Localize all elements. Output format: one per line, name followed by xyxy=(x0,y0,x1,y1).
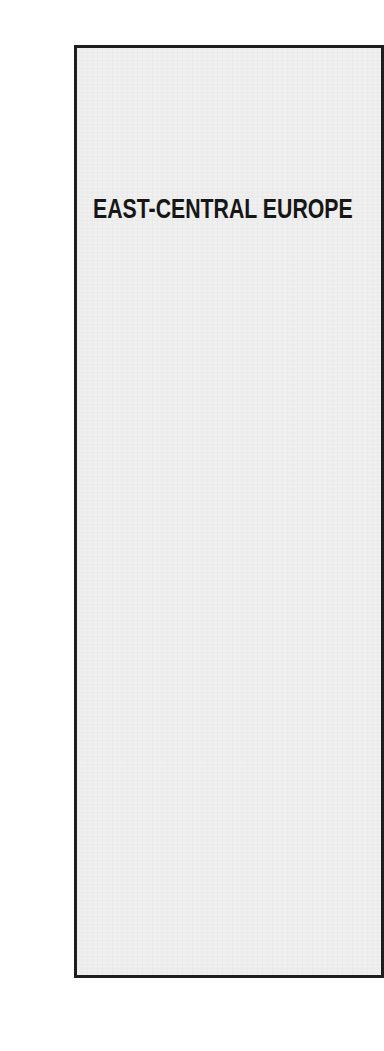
section-panel: EAST-CENTRAL EUROPE xyxy=(74,45,384,978)
section-title: EAST-CENTRAL EUROPE xyxy=(93,193,353,225)
